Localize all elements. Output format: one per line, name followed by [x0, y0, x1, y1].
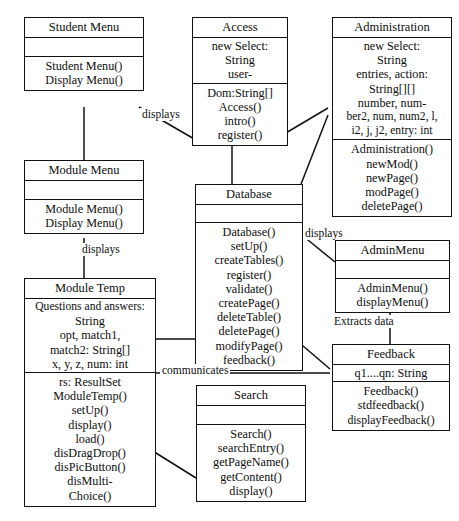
class-name-module-menu: Module Menu [25, 161, 143, 181]
operation-item: deleteTable() [199, 310, 299, 324]
class-box-administration[interactable]: Administration new Select: String entrie… [332, 17, 452, 217]
operation-item: Feedback() [336, 384, 446, 398]
class-attributes-search [197, 406, 305, 425]
operation-item: disPicButton() [28, 460, 152, 474]
class-name-search: Search [197, 386, 305, 406]
class-operations-database: Database() setUp() createTables() regist… [196, 223, 302, 370]
operation-item: disDragDrop() [28, 446, 152, 460]
class-attributes-administration: new Select: String entries, action: Stri… [333, 38, 451, 140]
operation-item: validate() [199, 282, 299, 296]
attribute-item: user- [196, 67, 284, 81]
operation-item: ModuleTemp() [28, 389, 152, 403]
attribute-item: i2, j, j2, entry: int [336, 124, 448, 138]
attribute-item: new Select: [196, 39, 284, 53]
operation-item: deletePage() [336, 199, 448, 213]
class-operations-module-temp: rs: ResultSet ModuleTemp() setUp() displ… [25, 373, 155, 506]
class-box-student-menu[interactable]: Student Menu Student Menu() Display Menu… [24, 17, 144, 91]
attribute-item: Questions and answers: [28, 300, 152, 314]
class-operations-module-menu: Module Menu() Display Menu() [25, 200, 143, 233]
operation-item: register() [199, 268, 299, 282]
operation-item: newMod() [336, 157, 448, 171]
class-box-feedback[interactable]: Feedback q1....qn: String Feedback() std… [332, 344, 450, 431]
class-box-search[interactable]: Search Search() searchEntry() getPageNam… [196, 385, 306, 502]
class-attributes-feedback: q1....qn: String [333, 365, 449, 382]
attribute-item: match2: String[] [28, 343, 152, 357]
class-box-module-menu[interactable]: Module Menu Module Menu() Display Menu() [24, 160, 144, 234]
operation-item: display() [200, 484, 302, 498]
operation-item: newPage() [336, 171, 448, 185]
operation-item: setUp() [28, 403, 152, 417]
edge-label-extracts-data: Extracts data [332, 315, 396, 328]
operation-item: Module Menu() [28, 202, 140, 216]
operation-item: createTables() [199, 253, 299, 267]
operation-item: Dom:String[] [196, 86, 284, 100]
class-box-access[interactable]: Access new Select: String user- Dom:Stri… [192, 17, 288, 146]
class-name-database: Database [196, 185, 302, 205]
edge-label-displays-student-access: displays [140, 108, 182, 121]
class-operations-search: Search() searchEntry() getPageName() get… [197, 425, 305, 501]
class-operations-feedback: Feedback() stdfeedback() displayFeedback… [333, 382, 449, 430]
operation-item: Search() [200, 427, 302, 441]
operation-item: setUp() [199, 239, 299, 253]
attribute-item: ber2, num, num2, l, [336, 110, 448, 124]
operation-item: intro() [196, 114, 284, 128]
class-box-admin-menu[interactable]: AdminMenu AdminMenu() displayMenu() [335, 240, 450, 313]
operation-item: Display Menu() [28, 216, 140, 230]
operation-item: createPage() [199, 296, 299, 310]
attribute-item: String[][] [336, 82, 448, 96]
operation-item: load() [28, 432, 152, 446]
attribute-item: new Select: [336, 39, 448, 53]
operation-item: Choice() [28, 489, 152, 503]
attribute-item: number, num- [336, 96, 448, 110]
operation-item: Display Menu() [28, 73, 140, 87]
operation-item: deletePage() [199, 324, 299, 338]
operation-item: register() [196, 128, 284, 142]
operation-item: displayMenu() [339, 295, 446, 309]
operation-item: Student Menu() [28, 59, 140, 73]
attribute-item: entries, action: [336, 67, 448, 81]
operation-item: AdminMenu() [339, 281, 446, 295]
attribute-item: q1....qn: String [336, 366, 446, 380]
edge-label-displays-database-adminmenu: displays [303, 227, 345, 240]
uml-class-diagram-canvas: displays displays displays Extracts data… [0, 0, 459, 521]
operation-item: stdfeedback() [336, 398, 446, 412]
operation-item: disMulti- [28, 474, 152, 488]
class-attributes-module-temp: Questions and answers: String opt, match… [25, 299, 155, 373]
attribute-item: String [196, 53, 284, 67]
attribute-item: opt, match1, [28, 328, 152, 342]
attribute-item: String [28, 314, 152, 328]
class-name-administration: Administration [333, 18, 451, 38]
operation-item: display() [28, 418, 152, 432]
operation-item: modPage() [336, 185, 448, 199]
edge-label-communicates: communicates [160, 364, 230, 377]
class-operations-admin-menu: AdminMenu() displayMenu() [336, 279, 449, 312]
operation-item: rs: ResultSet [28, 375, 152, 389]
operation-item: Access() [196, 100, 284, 114]
class-operations-administration: Administration() newMod() newPage() modP… [333, 140, 451, 216]
class-name-access: Access [193, 18, 287, 38]
operation-item: Database() [199, 225, 299, 239]
operation-item: getContent() [200, 470, 302, 484]
operation-item: searchEntry() [200, 441, 302, 455]
class-attributes-database [196, 205, 302, 223]
class-name-admin-menu: AdminMenu [336, 241, 449, 261]
operation-item: displayFeedback() [336, 413, 446, 427]
class-name-module-temp: Module Temp [25, 279, 155, 299]
class-attributes-module-menu [25, 181, 143, 200]
operation-item: getPageName() [200, 455, 302, 469]
class-operations-access: Dom:String[] Access() intro() register() [193, 84, 287, 146]
class-attributes-access: new Select: String user- [193, 38, 287, 84]
class-attributes-student-menu [25, 38, 143, 57]
operation-item: modifyPage() [199, 339, 299, 353]
class-operations-student-menu: Student Menu() Display Menu() [25, 57, 143, 90]
edge-label-displays-module-temp: displays [80, 243, 122, 256]
class-name-feedback: Feedback [333, 345, 449, 365]
attribute-item: x, y, z, num: int [28, 357, 152, 371]
class-name-student-menu: Student Menu [25, 18, 143, 38]
operation-item: Administration() [336, 142, 448, 156]
class-box-database[interactable]: Database Database() setUp() createTables… [195, 184, 303, 371]
attribute-item: String [336, 53, 448, 67]
class-attributes-admin-menu [336, 261, 449, 279]
class-box-module-temp[interactable]: Module Temp Questions and answers: Strin… [24, 278, 156, 507]
